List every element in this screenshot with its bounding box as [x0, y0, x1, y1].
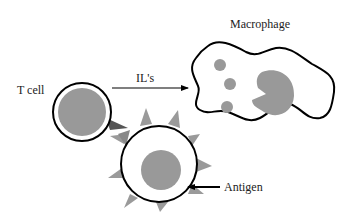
- immune-diagram: Macrophage IL's T cell Antigen: [0, 0, 342, 212]
- antigen-presenting-cell: [121, 126, 197, 202]
- antigen-label: Antigen: [224, 180, 263, 194]
- granule: [221, 101, 233, 113]
- t-cell-label: T cell: [17, 83, 45, 97]
- interleukin-label: IL's: [136, 71, 154, 85]
- t-cell-nucleus: [58, 88, 106, 136]
- granule: [214, 59, 226, 71]
- apc-nucleus: [141, 150, 181, 190]
- granule: [224, 78, 236, 90]
- macrophage: [192, 42, 334, 120]
- macrophage-label: Macrophage: [230, 17, 290, 31]
- t-cell: [53, 83, 111, 141]
